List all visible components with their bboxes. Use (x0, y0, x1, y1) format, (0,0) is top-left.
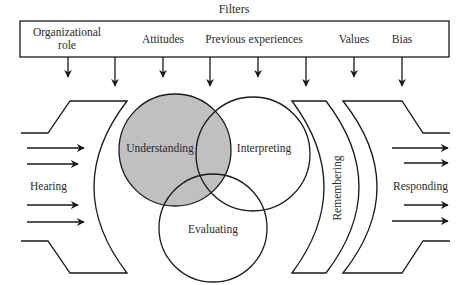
evaluating-label: Evaluating (188, 223, 238, 236)
filter-arrows (68, 57, 402, 86)
responding-label: Responding (393, 180, 448, 193)
diagram-title: Filters (219, 2, 250, 16)
remembering-label: Remembering (331, 155, 344, 220)
remembering-shape (292, 101, 359, 273)
filter-values: Values (339, 33, 370, 45)
filter-previous-experiences: Previous experiences (205, 33, 303, 46)
filter-organizational-role-line1: Organizational (33, 26, 101, 39)
interpreting-label: Interpreting (237, 142, 292, 155)
filter-bias: Bias (392, 33, 413, 45)
hearing-label: Hearing (30, 180, 67, 193)
listening-process-diagram: Filters Organizational role Attitudes Pr… (0, 0, 465, 285)
filter-organizational-role-line2: role (58, 39, 76, 51)
understanding-label: Understanding (126, 142, 194, 155)
filter-attitudes: Attitudes (142, 33, 185, 45)
